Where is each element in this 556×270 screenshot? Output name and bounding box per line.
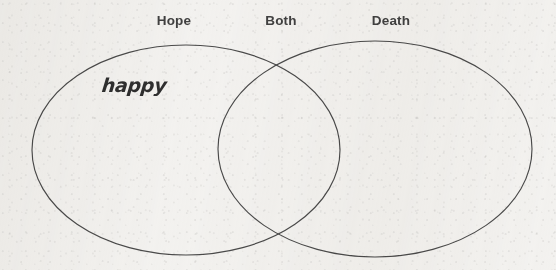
handwritten-entry-happy[interactable]: happy: [101, 76, 167, 95]
venn-label-left: Hope: [157, 14, 192, 28]
venn-circle-right-death[interactable]: [218, 41, 532, 257]
venn-label-right: Death: [372, 14, 411, 28]
venn-diagram: [0, 0, 556, 270]
venn-circle-left-hope[interactable]: [32, 45, 340, 255]
worksheet-page: Hope Both Death happy: [0, 0, 556, 270]
venn-label-overlap: Both: [265, 14, 297, 28]
